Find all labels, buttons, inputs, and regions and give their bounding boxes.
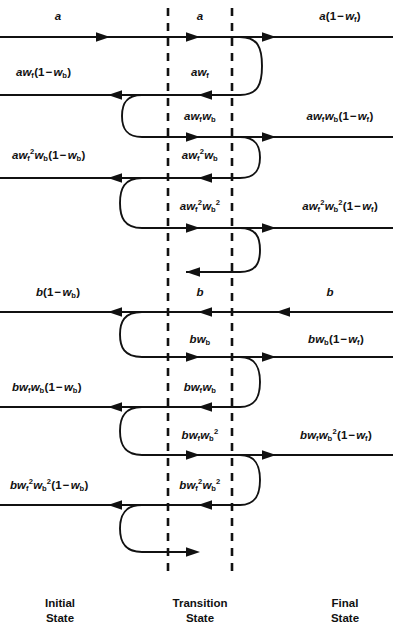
arrow-a-row1-final [262, 32, 276, 42]
arrow-b-row5-transition [198, 500, 212, 510]
arrow-b-row1-initial [108, 307, 122, 317]
footer-initial-state: Initial State [45, 596, 75, 626]
label-b-row5-transition: bwf2wb2 [179, 479, 220, 491]
label-a-row1-initial: a [55, 10, 62, 22]
arrow-b-row4-transition [186, 450, 200, 460]
loop-right-b-2 [232, 455, 260, 505]
arrow-b-row6-terminal [186, 547, 200, 557]
arrow-a-row6-terminal [186, 267, 200, 277]
label-b-row2-transition: bwb [190, 333, 211, 345]
flow-diagram-svg [0, 0, 393, 629]
arrow-a-row5-transition [186, 223, 200, 233]
label-a-row2-transition: awf [191, 66, 209, 78]
arrow-a-row2-transition [198, 90, 212, 100]
flux-ladder-diagram: a a a(1 − wf) awf(1 − wb) awf awfwb awfw… [0, 0, 393, 629]
label-a-row3-final: awfwb(1 − wf) [307, 110, 374, 122]
arrow-b-row2-transition [186, 352, 200, 362]
label-b-row1-initial: b(1 − wb) [36, 286, 80, 298]
arrow-b-row3-initial [108, 402, 122, 412]
label-b-row1-transition: b [196, 286, 203, 298]
loop-left-b-2 [120, 407, 150, 455]
loop-left-b-3 [120, 505, 150, 552]
label-a-row1-final: a(1 − wf) [319, 10, 361, 22]
arrow-a-row3-final [262, 132, 276, 142]
label-a-row5-final: awf2wb2(1 − wf) [302, 200, 378, 212]
label-a-row3-transition: awfwb [184, 110, 216, 122]
arrow-a-row2-initial [108, 90, 122, 100]
label-b-row4-final: bwfwb2(1 − wf) [300, 429, 372, 441]
arrow-b-row3-transition [198, 402, 212, 412]
footer-transition-state: Transition State [173, 596, 228, 626]
label-a-row4-initial: awf2wb(1 − wb) [12, 149, 85, 161]
arrow-b-row2-final [262, 352, 276, 362]
arrow-b-row5-initial [108, 500, 122, 510]
footer-final-state: Final State [331, 596, 359, 626]
loop-left-b-1 [120, 312, 150, 357]
label-b-row3-initial: bwfwb(1 − wb) [12, 381, 82, 393]
label-b-row1-final: b [326, 286, 333, 298]
label-b-row4-transition: bwfwb2 [182, 429, 219, 441]
arrow-a-row3-transition [186, 132, 200, 142]
label-b-row2-final: bwb(1 − wf) [308, 333, 364, 345]
loop-left-a-1 [122, 95, 150, 137]
arrow-a-row4-initial [108, 173, 122, 183]
arrow-b-row1-final [276, 307, 290, 317]
label-b-row5-initial: bwf2wb2(1 − wb) [10, 479, 88, 491]
label-a-row5-transition: awf2wb2 [180, 200, 221, 212]
label-b-row3-transition: bwfwb [184, 381, 217, 393]
label-a-row1-transition: a [197, 10, 204, 22]
label-a-row4-transition: awf2wb [182, 149, 218, 161]
arrow-a-row1-initial [96, 32, 110, 42]
arrow-a-row1-transition [186, 32, 200, 42]
label-a-row2-initial: awf(1 − wb) [16, 66, 71, 78]
arrow-b-row1-transition [198, 307, 212, 317]
loop-right-b-1 [232, 357, 260, 407]
loop-right-a-2 [232, 137, 260, 178]
loop-right-a-3 [232, 228, 260, 272]
loop-left-a-2 [120, 178, 150, 228]
arrow-a-row5-final [262, 223, 276, 233]
arrow-a-row4-transition [198, 173, 212, 183]
loop-right-a-1 [232, 37, 262, 95]
arrow-b-row4-final [262, 450, 276, 460]
